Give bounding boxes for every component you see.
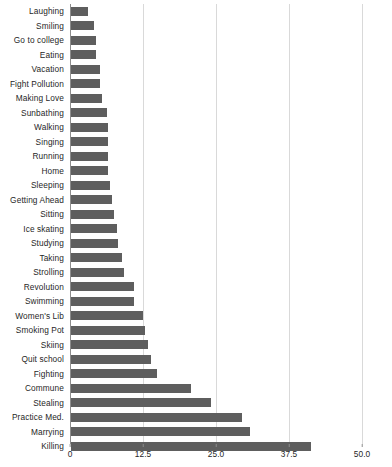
category-label: Laughing: [29, 4, 64, 19]
category-label: Vacation: [32, 62, 64, 77]
x-tick: 25.0: [208, 444, 225, 459]
tick-mark-icon: [289, 444, 290, 447]
bar: [71, 181, 110, 190]
bar-row: Eating: [70, 48, 362, 63]
bar-row: Fight Pollution: [70, 77, 362, 92]
bar-row: Practice Med.: [70, 410, 362, 425]
category-label: Ice skating: [23, 222, 64, 237]
bar: [71, 137, 108, 146]
category-label: Smoking Pot: [16, 323, 64, 338]
bar-row: Sunbathing: [70, 106, 362, 121]
category-label: Skiing: [41, 338, 64, 353]
bar-row: Making Love: [70, 91, 362, 106]
bar: [71, 7, 88, 16]
bar: [71, 253, 122, 262]
bar-row: Go to college: [70, 33, 362, 48]
bar: [71, 311, 143, 320]
x-tick-label: 50.0: [354, 449, 371, 459]
bar-row: Quit school: [70, 352, 362, 367]
bar: [71, 340, 148, 349]
bar-row: Singing: [70, 135, 362, 150]
gridline-50.0: [362, 4, 363, 444]
bar-row: Ice skating: [70, 222, 362, 237]
tick-mark-icon: [362, 444, 363, 447]
bar: [71, 413, 242, 422]
category-label: Running: [32, 149, 64, 164]
x-tick: 37.5: [281, 444, 298, 459]
tick-mark-icon: [216, 444, 217, 447]
bar-row: Fighting: [70, 367, 362, 382]
bar-row: Sitting: [70, 207, 362, 222]
bar-chart: LaughingSmilingGo to collegeEatingVacati…: [0, 0, 392, 467]
category-label: Walking: [34, 120, 64, 135]
bar-row: Home: [70, 164, 362, 179]
bar-row: Smoking Pot: [70, 323, 362, 338]
bar: [71, 369, 157, 378]
bar: [71, 355, 151, 364]
bar: [71, 65, 100, 74]
category-label: Killing: [41, 439, 64, 454]
bar: [71, 210, 114, 219]
category-label: Singing: [36, 135, 64, 150]
bar: [71, 36, 96, 45]
category-label: Go to college: [14, 33, 64, 48]
category-label: Fighting: [34, 367, 64, 382]
bar: [71, 94, 102, 103]
bar-row: Getting Ahead: [70, 193, 362, 208]
bar-row: Revolution: [70, 280, 362, 295]
bar: [71, 166, 108, 175]
bar: [71, 398, 211, 407]
bar: [71, 123, 108, 132]
bar: [71, 268, 124, 277]
bar: [71, 224, 117, 233]
category-label: Fight Pollution: [10, 77, 64, 92]
bar-row: Strolling: [70, 265, 362, 280]
category-label: Studying: [31, 236, 64, 251]
category-label: Practice Med.: [12, 410, 64, 425]
bar-row: Sleeping: [70, 178, 362, 193]
category-label: Quit school: [21, 352, 64, 367]
bar-row: Marrying: [70, 425, 362, 440]
category-label: Getting Ahead: [10, 193, 64, 208]
bar: [71, 50, 96, 59]
x-tick: 12.5: [135, 444, 152, 459]
category-label: Revolution: [24, 280, 64, 295]
category-label: Strolling: [33, 265, 64, 280]
bar-row: Skiing: [70, 338, 362, 353]
x-tick: 0: [68, 444, 73, 459]
bar: [71, 384, 191, 393]
category-label: Sitting: [40, 207, 64, 222]
category-label: Sleeping: [31, 178, 64, 193]
bar: [71, 427, 250, 436]
bar: [71, 21, 94, 30]
x-tick-label: 25.0: [208, 449, 225, 459]
category-label: Commune: [25, 381, 64, 396]
tick-mark-icon: [143, 444, 144, 447]
bar: [71, 326, 145, 335]
x-tick-label: 0: [68, 449, 73, 459]
category-label: Stealing: [33, 396, 64, 411]
category-label: Home: [41, 164, 64, 179]
bar-row: Taking: [70, 251, 362, 266]
x-axis: 012.525.037.550.0: [70, 444, 362, 464]
bar: [71, 239, 118, 248]
bar-row: Swimming: [70, 294, 362, 309]
category-label: Smiling: [36, 19, 64, 34]
category-label: Sunbathing: [21, 106, 64, 121]
x-tick-label: 12.5: [135, 449, 152, 459]
bar-row: Vacation: [70, 62, 362, 77]
bar-row: Running: [70, 149, 362, 164]
bar-row: Studying: [70, 236, 362, 251]
category-label: Marrying: [31, 425, 64, 440]
plot-area: LaughingSmilingGo to collegeEatingVacati…: [70, 4, 362, 444]
x-tick: 50.0: [354, 444, 371, 459]
tick-mark-icon: [70, 444, 71, 447]
bar: [71, 79, 100, 88]
bar: [71, 195, 112, 204]
bar-rows: LaughingSmilingGo to collegeEatingVacati…: [70, 4, 362, 444]
bar: [71, 297, 134, 306]
category-label: Swimming: [25, 294, 64, 309]
category-label: Taking: [39, 251, 64, 266]
bar-row: Women's Lib: [70, 309, 362, 324]
category-label: Making Love: [16, 91, 64, 106]
